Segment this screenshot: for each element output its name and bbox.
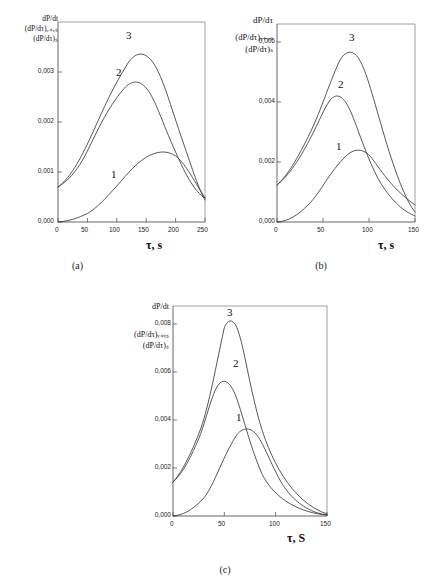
panel-b-caption: (b) bbox=[213, 260, 429, 271]
panel-a-xtick-3: 150 bbox=[138, 226, 149, 233]
panel-a-ytick-2: 0,001 bbox=[18, 167, 54, 174]
panel-b-curve-label-2: 2 bbox=[338, 78, 344, 90]
panel-b-curve-label-1: 1 bbox=[336, 140, 342, 152]
panel-a-xtick-5: 250 bbox=[197, 226, 208, 233]
panel-c-curve-3 bbox=[173, 321, 327, 514]
panel-c-xtick-1: 50 bbox=[218, 520, 225, 527]
panel-b-ytick-0: 0,006 bbox=[239, 37, 275, 44]
panel-a-curve-label-1: 1 bbox=[111, 168, 117, 180]
panel-c-x-axis-title: τ, S bbox=[287, 531, 305, 546]
panel-a-plot bbox=[0, 0, 215, 290]
panel-c-x-ticks bbox=[173, 512, 327, 516]
panel-c-ytick-4: 0,000 bbox=[135, 511, 171, 518]
panel-b-xtick-3: 150 bbox=[408, 226, 419, 233]
panel-c-curve-label-1: 1 bbox=[236, 411, 242, 423]
panel-a-ytick-0: 0,003 bbox=[18, 67, 54, 74]
panel-c-curve-2 bbox=[173, 381, 327, 515]
panel-c-curve-label-2: 2 bbox=[233, 357, 239, 369]
panel-c-caption: (c) bbox=[105, 564, 345, 575]
panel-a-ytick-1: 0,002 bbox=[18, 117, 54, 124]
panel-b-y-ticks bbox=[277, 42, 281, 222]
panel-b-curve-label-3: 3 bbox=[349, 31, 355, 43]
panel-c-ytick-0: 0,008 bbox=[135, 319, 171, 326]
panel-a-xtick-4: 200 bbox=[168, 226, 179, 233]
figure-root: dP/dt (dP/dτ)ᵥ₊ᵥₛ (dP/dτ)ₛ bbox=[0, 0, 431, 584]
panel-c-ytick-3: 0,002 bbox=[135, 463, 171, 470]
panel-b-x-axis-title: τ, s bbox=[378, 238, 394, 253]
panel-a-x-ticks bbox=[58, 218, 205, 222]
panel-c-ytick-1: 0,006 bbox=[135, 367, 171, 374]
panel-b-x-ticks bbox=[277, 218, 415, 222]
panel-c-xtick-2: 100 bbox=[269, 520, 280, 527]
panel-a-curve-label-2: 2 bbox=[116, 66, 122, 78]
panel-c-xtick-0: 0 bbox=[170, 520, 174, 527]
panel-c-ytick-2: 0,004 bbox=[135, 415, 171, 422]
panel-a-curve-3 bbox=[58, 54, 205, 200]
panel-a-x-axis-title: τ, s bbox=[146, 238, 162, 253]
panel-c-y-ticks bbox=[173, 324, 177, 516]
panel-a-curve-2 bbox=[58, 82, 205, 198]
panel-a-curve-label-3: 3 bbox=[126, 29, 132, 41]
panel-a-y-ticks bbox=[58, 72, 62, 222]
panel-a: dP/dt (dP/dτ)ᵥ₊ᵥₛ (dP/dτ)ₛ bbox=[0, 0, 215, 290]
panel-b-xtick-0: 0 bbox=[274, 226, 278, 233]
panel-a-xtick-2: 100 bbox=[109, 226, 120, 233]
panel-a-ytick-3: 0,000 bbox=[18, 217, 54, 224]
panel-b-xtick-1: 50 bbox=[317, 226, 324, 233]
panel-c-plot bbox=[105, 292, 345, 584]
panel-a-caption: (a) bbox=[0, 260, 185, 271]
panel-a-curve-1 bbox=[58, 152, 205, 222]
panel-c-curve-label-3: 3 bbox=[227, 306, 233, 318]
panel-c: dP/dt (dP/dτ)ᵥ₊ᵥₛ (dP/dτ)ₛ bbox=[105, 292, 345, 584]
panel-b-ytick-1: 0,004 bbox=[239, 97, 275, 104]
panel-b-ytick-2: 0,002 bbox=[239, 157, 275, 164]
panel-a-xtick-1: 50 bbox=[81, 226, 88, 233]
panel-b-curve-3 bbox=[277, 52, 415, 212]
panel-b-xtick-2: 100 bbox=[362, 226, 373, 233]
panel-b: dP/dτ (dP/dτ)ᵥ₊ᵥₛ (dP/dτ)ₛ bbox=[215, 0, 431, 290]
panel-a-xtick-0: 0 bbox=[55, 226, 59, 233]
panel-c-xtick-3: 150 bbox=[320, 520, 331, 527]
panel-b-ytick-3: 0,000 bbox=[239, 217, 275, 224]
